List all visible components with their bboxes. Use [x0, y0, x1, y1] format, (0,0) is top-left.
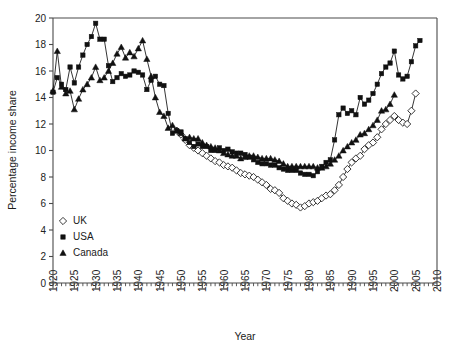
data-point — [337, 113, 341, 117]
data-point — [358, 95, 362, 99]
x-tick-label: 1925 — [69, 269, 80, 292]
data-point — [132, 69, 136, 73]
data-point — [54, 48, 60, 54]
y-tick-label: 20 — [35, 13, 47, 24]
data-point — [135, 45, 141, 51]
data-point — [152, 94, 158, 100]
data-point — [101, 74, 107, 80]
data-point — [413, 44, 417, 48]
legend-label-usa[interactable]: USA — [73, 231, 94, 242]
y-axis-title-group: Percentage income share — [6, 90, 18, 210]
data-point — [128, 73, 132, 77]
data-point — [105, 68, 111, 74]
data-point — [362, 102, 366, 106]
x-tick-label: 1990 — [347, 269, 358, 292]
y-tick-label: 4 — [40, 225, 46, 236]
data-point — [332, 138, 336, 142]
legend-marker-usa — [61, 235, 65, 239]
y-tick-label: 10 — [35, 145, 47, 156]
series-canada — [50, 37, 398, 170]
y-tick-label: 14 — [35, 92, 47, 103]
data-point — [76, 65, 80, 69]
x-tick-label: 1955 — [197, 269, 208, 292]
data-point — [345, 111, 349, 115]
y-tick-labels: 02468101214161820 — [35, 13, 47, 289]
data-point — [388, 61, 392, 65]
data-point — [98, 37, 102, 41]
figure-container: Percentage income share 0246810121416182… — [0, 0, 455, 347]
x-tick-label: 1950 — [176, 269, 187, 292]
data-point — [374, 117, 380, 123]
data-point — [226, 147, 230, 151]
x-tick-label: 1965 — [240, 269, 251, 292]
data-point — [379, 71, 383, 75]
data-point — [162, 83, 166, 87]
data-point — [85, 42, 89, 46]
data-point — [68, 65, 72, 69]
y-tick-label: 0 — [40, 278, 46, 289]
data-point — [145, 87, 149, 91]
x-tick-label: 1980 — [304, 269, 315, 292]
data-point — [298, 171, 302, 175]
x-tick-labels: 1920192519301935194019451950195519601965… — [48, 269, 443, 292]
y-tick-label: 8 — [40, 172, 46, 183]
data-point — [344, 165, 351, 172]
data-point — [418, 38, 422, 42]
income-share-line-chart: Percentage income share 0246810121416182… — [0, 0, 455, 347]
x-tick-label: 1985 — [325, 269, 336, 292]
data-point — [93, 21, 97, 25]
data-point — [115, 75, 119, 79]
data-point — [303, 172, 307, 176]
data-point — [136, 70, 140, 74]
x-axis-title: Year — [234, 330, 256, 342]
data-point — [387, 101, 393, 107]
chart-legend: UKUSACanada — [59, 215, 108, 258]
y-tick-label: 16 — [35, 66, 47, 77]
data-point — [354, 113, 358, 117]
data-point — [84, 81, 90, 87]
axis-lines — [53, 18, 437, 283]
x-tick-label: 1940 — [133, 269, 144, 292]
data-point — [140, 73, 144, 77]
data-point — [307, 172, 311, 176]
data-point — [157, 109, 163, 115]
x-tick-label: 2005 — [411, 269, 422, 292]
data-point — [192, 144, 196, 148]
data-point — [93, 64, 99, 70]
data-point — [110, 60, 116, 66]
data-series-layer — [50, 21, 422, 211]
data-point — [371, 91, 375, 95]
data-point — [405, 74, 409, 78]
data-point — [268, 163, 272, 167]
data-point — [127, 49, 133, 55]
data-point — [139, 37, 145, 43]
y-tick-label: 2 — [40, 251, 46, 262]
data-point — [409, 60, 413, 64]
data-point — [102, 37, 106, 41]
data-point — [55, 75, 59, 79]
x-tick-label: 1995 — [368, 269, 379, 292]
x-tick-label: 1970 — [261, 269, 272, 292]
x-tick-label: 1930 — [91, 269, 102, 292]
data-point — [311, 173, 315, 177]
data-point — [341, 106, 345, 110]
data-point — [144, 56, 150, 62]
data-point — [384, 65, 388, 69]
x-tick-label: 2000 — [389, 269, 400, 292]
legend-marker-uk — [59, 217, 66, 224]
y-tick-label: 12 — [35, 119, 47, 130]
data-point — [367, 98, 371, 102]
data-point — [264, 162, 268, 166]
data-point — [123, 74, 127, 78]
data-point — [260, 162, 264, 166]
data-point — [396, 73, 400, 77]
data-point — [375, 82, 379, 86]
legend-label-uk[interactable]: UK — [73, 215, 87, 226]
data-point — [114, 51, 120, 57]
x-tick-label: 1960 — [219, 269, 230, 292]
y-tick-label: 6 — [40, 198, 46, 209]
data-point — [71, 106, 77, 112]
legend-label-canada[interactable]: Canada — [73, 247, 108, 258]
legend-marker-canada — [60, 250, 66, 256]
x-tick-label: 1935 — [112, 269, 123, 292]
